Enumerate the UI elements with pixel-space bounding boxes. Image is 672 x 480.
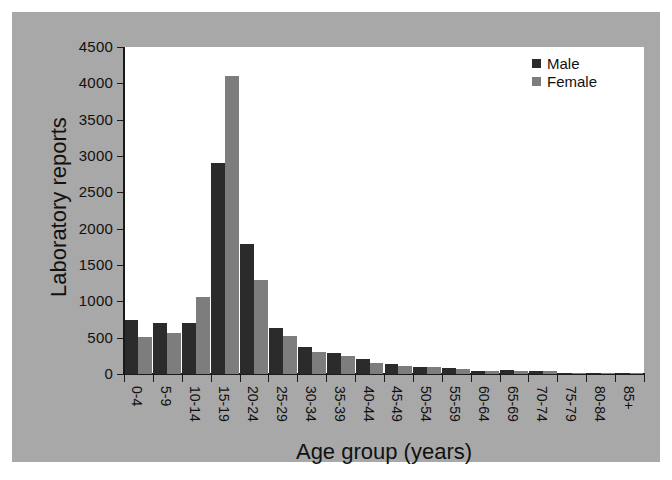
bar-female-30-34 [312, 352, 326, 374]
chart-figure: 050010001500200025003000350040004500 0-4… [0, 0, 672, 480]
bar-female-35-39 [341, 356, 355, 374]
bar-male-50-54 [413, 367, 427, 374]
bar-male-80-84 [587, 373, 601, 374]
x-axis-tick [413, 374, 414, 382]
y-axis-tick-label: 4500 [12, 39, 113, 55]
bar-male-25-29 [269, 328, 283, 374]
bar-male-5-9 [153, 323, 167, 374]
x-axis-tick [442, 374, 443, 382]
x-axis-title: Age group (years) [124, 439, 644, 465]
x-axis-tick [644, 374, 645, 382]
y-axis-tick [117, 338, 124, 339]
legend-label: Female [547, 74, 597, 89]
y-axis-tick [117, 120, 124, 121]
bar-female-0-4 [138, 337, 152, 374]
x-axis-tick [182, 374, 183, 382]
bar-male-65-69 [500, 370, 514, 374]
x-axis-tick [355, 374, 356, 382]
legend-item-female: Female [532, 74, 597, 89]
y-axis-tick [117, 192, 124, 193]
y-axis-tick [117, 156, 124, 157]
y-axis-tick [117, 47, 124, 48]
bar-female-45-49 [398, 366, 412, 374]
bar-male-15-19 [211, 163, 225, 374]
x-axis-tick [268, 374, 269, 382]
y-axis-tick [117, 229, 124, 230]
x-axis-tick [153, 374, 154, 382]
bar-female-25-29 [283, 336, 297, 374]
bar-male-75-79 [558, 373, 572, 374]
bars-layer [124, 47, 644, 374]
bar-female-80-84 [601, 373, 615, 374]
bar-male-20-24 [240, 244, 254, 374]
bar-male-55-59 [442, 368, 456, 374]
bar-female-10-14 [196, 297, 210, 374]
bar-female-5-9 [167, 333, 181, 374]
x-axis-tick [586, 374, 587, 382]
bar-male-70-74 [529, 371, 543, 374]
legend-swatch-male [532, 59, 541, 68]
bar-female-85+ [630, 373, 644, 374]
bar-male-85+ [616, 373, 630, 374]
x-axis-tick [615, 374, 616, 382]
x-axis-tick [326, 374, 327, 382]
x-axis-tick [384, 374, 385, 382]
y-axis-tick [117, 301, 124, 302]
x-axis-tick [500, 374, 501, 382]
bar-male-0-4 [125, 320, 139, 375]
bar-female-40-44 [370, 363, 384, 374]
y-axis-tick-label-text: 4500 [13, 39, 113, 54]
bar-female-60-64 [485, 371, 499, 374]
x-axis-tick [124, 374, 125, 382]
bar-female-75-79 [572, 373, 586, 374]
bar-male-60-64 [471, 371, 485, 374]
x-axis-tick [528, 374, 529, 382]
bar-female-55-59 [456, 369, 470, 374]
x-axis-tick [240, 374, 241, 382]
bar-female-70-74 [543, 371, 557, 374]
legend-label: Male [547, 56, 580, 71]
legend-swatch-female [532, 77, 541, 86]
y-axis-tick-label: 0 [12, 366, 113, 382]
bar-male-45-49 [385, 364, 399, 374]
bar-male-35-39 [327, 353, 341, 374]
y-axis-tick [117, 265, 124, 266]
bar-male-40-44 [356, 359, 370, 374]
x-axis-tick [297, 374, 298, 382]
x-axis-tick [557, 374, 558, 382]
x-axis-tick [211, 374, 212, 382]
legend-item-male: Male [532, 56, 597, 71]
bar-male-10-14 [182, 323, 196, 374]
y-axis-tick [117, 374, 124, 375]
chart-canvas: 050010001500200025003000350040004500 0-4… [12, 12, 660, 462]
bar-female-20-24 [254, 280, 268, 374]
bar-female-65-69 [514, 371, 528, 374]
x-axis-tick [471, 374, 472, 382]
bar-female-15-19 [225, 76, 239, 374]
y-axis-title: Laboratory reports [46, 67, 72, 347]
y-axis-tick-label-text: 0 [13, 366, 113, 381]
bar-female-50-54 [427, 367, 441, 374]
y-axis-tick [117, 83, 124, 84]
chart-legend: MaleFemale [532, 56, 597, 92]
bar-male-30-34 [298, 347, 312, 374]
